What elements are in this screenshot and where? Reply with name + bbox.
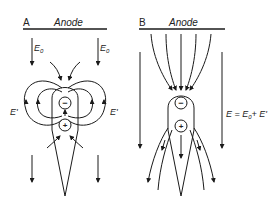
svg-text:−: − bbox=[62, 98, 67, 108]
panel-b-letter: B bbox=[139, 17, 146, 28]
panel-b-converging-field bbox=[151, 34, 211, 90]
panel-a-letter: A bbox=[23, 17, 30, 28]
svg-text:+: + bbox=[63, 121, 68, 130]
panel-a: A Anode E0 E0 bbox=[10, 17, 118, 196]
panel-b: B Anode bbox=[139, 17, 267, 196]
svg-text:+: + bbox=[179, 122, 184, 131]
panel-a-negative-charge: − bbox=[59, 97, 71, 109]
panel-b-streamer bbox=[148, 96, 214, 196]
panel-a-e0-right: E0 bbox=[100, 43, 110, 54]
panel-b-positive-charge: + bbox=[175, 120, 187, 132]
diagram-canvas: A Anode E0 E0 bbox=[0, 0, 273, 197]
panel-b-negative-charge: − bbox=[175, 97, 187, 109]
panel-a-eprime-right: E' bbox=[110, 107, 118, 117]
panel-a-e0-left: E0 bbox=[34, 43, 44, 54]
panel-a-positive-charge: + bbox=[59, 119, 71, 131]
panel-b-equation: E = E0+ E' bbox=[226, 109, 267, 120]
panel-a-anode-label: Anode bbox=[53, 17, 83, 28]
panel-b-anode-label: Anode bbox=[168, 17, 198, 28]
svg-text:−: − bbox=[178, 98, 183, 108]
panel-a-eprime-left: E' bbox=[10, 107, 18, 117]
